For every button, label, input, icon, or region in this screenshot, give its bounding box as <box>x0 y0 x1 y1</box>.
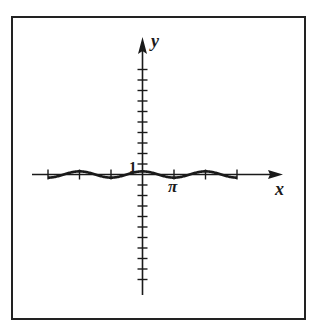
x-axis-label: x <box>274 179 284 199</box>
y-axis <box>138 37 148 295</box>
graph-figure: y x 1 π <box>0 0 310 329</box>
y-tick-label-1: 1 <box>129 159 137 175</box>
x-axis-arrow-icon <box>268 170 283 179</box>
x-tick-label-pi: π <box>168 177 178 196</box>
y-axis-label: y <box>149 31 160 51</box>
graph-frame <box>12 17 305 319</box>
